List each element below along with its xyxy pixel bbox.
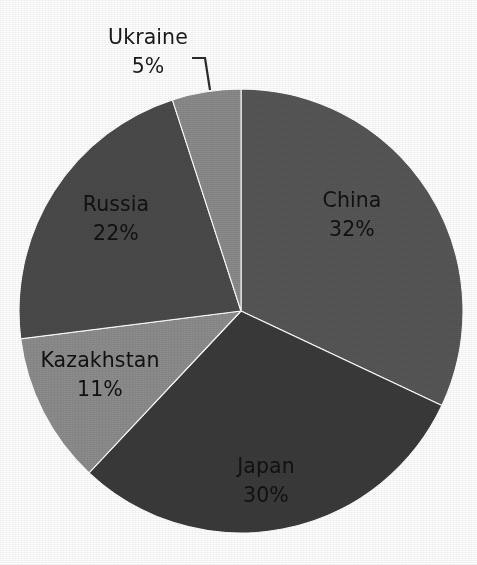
slice-label-name-russia: Russia [83, 192, 150, 216]
slice-label-name-china: China [322, 188, 381, 212]
slice-label-value-japan: 30% [243, 483, 289, 507]
slice-label-name-kazakhstan: Kazakhstan [40, 348, 159, 372]
slice-label-value-kazakhstan: 11% [77, 377, 123, 401]
slice-label-name-ukraine: Ukraine [108, 25, 188, 49]
slice-label-name-japan: Japan [235, 454, 295, 478]
slice-label-value-china: 32% [329, 217, 375, 241]
slice-label-value-russia: 22% [93, 221, 139, 245]
pie-chart: China32%Japan30%Kazakhstan11%Russia22%Uk… [0, 0, 477, 565]
pie-chart-canvas: China32%Japan30%Kazakhstan11%Russia22%Uk… [0, 0, 477, 565]
slice-label-value-ukraine: 5% [132, 54, 165, 78]
